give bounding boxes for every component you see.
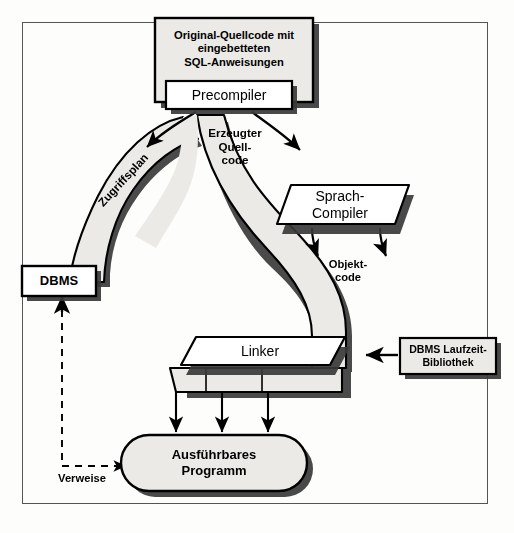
precompiler-label: Precompiler (166, 81, 292, 109)
generated-source-label: Erzeugter Quell- code (185, 126, 285, 167)
source-code-label: Original-Quellcode mit eingebetteten SQL… (155, 18, 313, 80)
linker-label: Linker (190, 337, 330, 365)
diagram-canvas: Original-Quellcode mit eingebetteten SQL… (0, 0, 514, 533)
dbms-label: DBMS (22, 266, 96, 296)
object-code-label: Objekt- code (313, 258, 383, 284)
runtime-library-label: DBMS Laufzeit- Bibliothek (400, 338, 496, 374)
references-dashed-path (62, 310, 126, 466)
references-label: Verweise (42, 472, 122, 485)
linker-output-streams (170, 368, 342, 432)
executable-program-label: Ausführbares Programm (121, 435, 307, 491)
sprach-compiler-label: Sprach- Compiler (281, 185, 399, 224)
